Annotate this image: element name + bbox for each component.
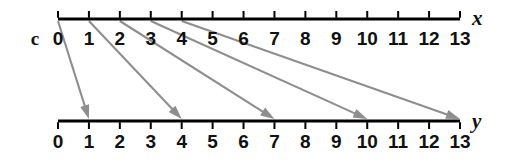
y-axis-tick-label-4: 4	[176, 131, 187, 152]
x-axis-tick-label-9: 9	[331, 28, 342, 49]
y-axis-tick-label-7: 7	[269, 131, 280, 152]
x-axis-tick-label-13: 13	[449, 28, 470, 49]
y-axis-tick-label-12: 12	[419, 131, 440, 152]
y-axis-tick-label-10: 10	[357, 131, 378, 152]
y-axis-ticks	[58, 122, 460, 129]
y-axis-tick-label-3: 3	[145, 131, 156, 152]
x-axis-tick-label-12: 12	[419, 28, 440, 49]
x-axis-ticks	[58, 11, 460, 18]
x-axis-tick-label-4: 4	[176, 28, 187, 49]
mapping-arrow-2-to-7	[120, 21, 275, 119]
x-axis-tick-label-1: 1	[84, 28, 95, 49]
x-axis-tick-label-11: 11	[388, 28, 409, 49]
y-axis-name-label: y	[469, 109, 482, 133]
x-axis-tick-label-2: 2	[115, 28, 126, 49]
y-axis-tick-label-0: 0	[53, 131, 64, 152]
mapping-diagram-svg: 012345678910111213 x 012345678910111213 …	[0, 0, 510, 168]
x-axis-tick-label-8: 8	[300, 28, 311, 49]
x-axis-tick-label-3: 3	[145, 28, 156, 49]
x-axis-group: 012345678910111213 x	[53, 6, 483, 49]
y-axis-tick-label-2: 2	[115, 131, 126, 152]
x-axis-tick-label-0: 0	[53, 28, 64, 49]
x-axis-name-label: x	[471, 6, 483, 30]
x-axis-tick-label-5: 5	[207, 28, 218, 49]
mapping-diagram-canvas: 012345678910111213 x 012345678910111213 …	[0, 0, 510, 168]
y-axis-tick-labels: 012345678910111213	[53, 131, 471, 152]
y-axis-tick-label-8: 8	[300, 131, 311, 152]
y-axis-tick-label-11: 11	[388, 131, 409, 152]
x-axis-tick-labels: 012345678910111213	[53, 28, 471, 49]
set-label-c: c	[31, 28, 39, 49]
mapping-arrow-1-to-4	[89, 21, 182, 119]
y-axis-tick-label-9: 9	[331, 131, 342, 152]
x-axis-tick-label-10: 10	[357, 28, 378, 49]
x-axis-tick-label-7: 7	[269, 28, 280, 49]
y-axis-tick-label-5: 5	[207, 131, 218, 152]
x-axis-tick-label-6: 6	[238, 28, 249, 49]
y-axis-tick-label-1: 1	[84, 131, 95, 152]
y-axis-tick-label-13: 13	[449, 131, 470, 152]
y-axis-tick-label-6: 6	[238, 131, 249, 152]
